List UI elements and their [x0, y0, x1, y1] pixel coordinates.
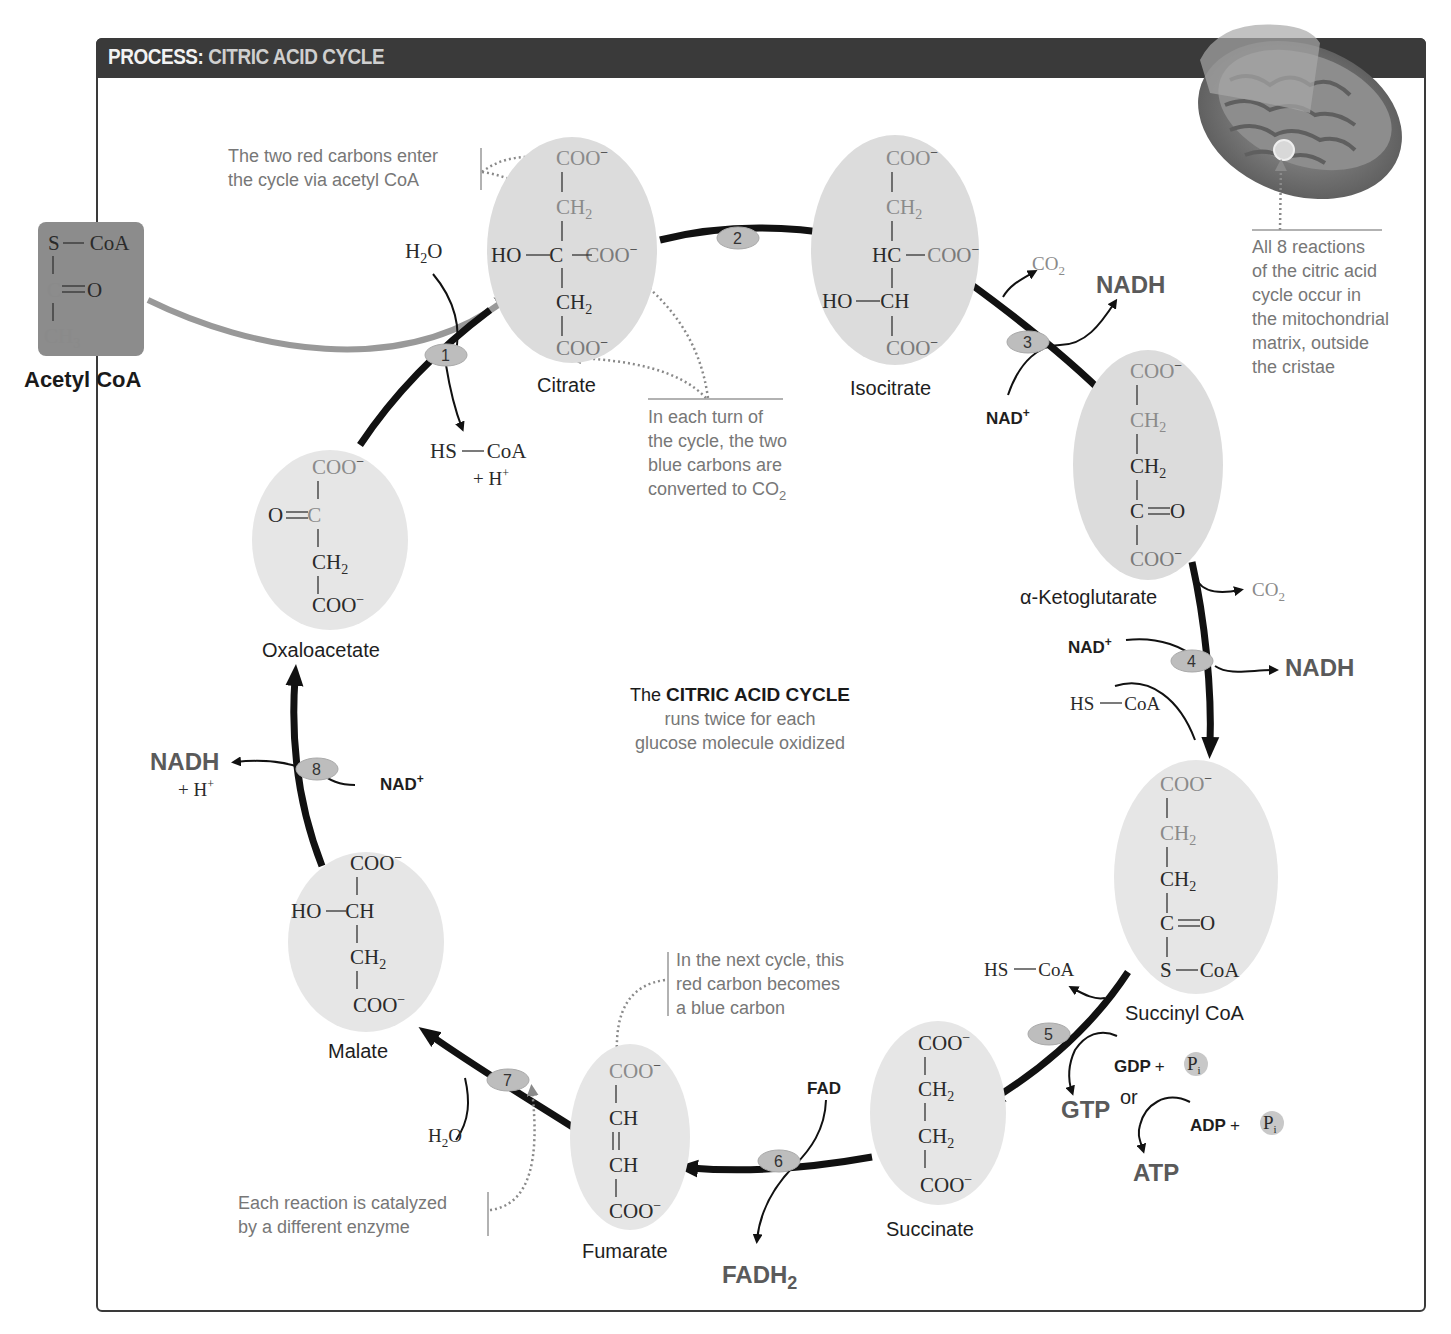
svg-text:glucose molecule oxidized: glucose molecule oxidized	[635, 733, 845, 753]
step-badge-1: 1	[425, 344, 467, 366]
svg-text:The two red carbons enter: The two red carbons enter	[228, 146, 438, 166]
svg-text:converted to CO2: converted to CO2	[648, 479, 786, 503]
step8-nad: NAD+	[380, 772, 424, 794]
svg-text:CH: CH	[609, 1106, 638, 1130]
step4-nadh: NADH	[1285, 654, 1354, 681]
svg-text:the cristae: the cristae	[1252, 357, 1335, 377]
svg-text:runs twice for each: runs twice for each	[664, 709, 815, 729]
citric-acid-cycle-figure: PROCESS: CITRIC ACID CYCLE	[0, 0, 1451, 1334]
step3-nadh: NADH	[1096, 271, 1165, 298]
note-arrow-enzyme	[490, 1090, 535, 1210]
step4-co2: CO2	[1252, 579, 1285, 604]
svg-text:by a different enzyme: by a different enzyme	[238, 1217, 410, 1237]
step5-atp: ATP	[1133, 1159, 1179, 1186]
step-badge-8: 8	[296, 758, 338, 780]
cycle-diagram: SCoA CO CH3 Acetyl CoA	[0, 0, 1451, 1334]
svg-text:cycle occur in: cycle occur in	[1252, 285, 1361, 305]
step5-or: or	[1120, 1086, 1138, 1108]
note-mitochondria: All 8 reactions of the citric acid cycle…	[1252, 237, 1389, 377]
step5-adp: ADP+	[1190, 1116, 1240, 1135]
step-badge-3: 3	[1007, 331, 1049, 353]
malate-molecule: COO− HOCH CH2 COO− Malate	[288, 850, 444, 1062]
svg-text:8: 8	[312, 761, 321, 778]
atp-out-arrow-5	[1139, 1098, 1190, 1150]
svg-text:the mitochondrial: the mitochondrial	[1252, 309, 1389, 329]
center-caption: The CITRIC ACID CYCLE runs twice for eac…	[630, 684, 850, 753]
svg-text:7: 7	[503, 1072, 512, 1089]
isocitrate-label: Isocitrate	[850, 377, 931, 399]
step6-fad: FAD	[807, 1079, 841, 1098]
svg-text:matrix, outside: matrix, outside	[1252, 333, 1369, 353]
note-arrow-next-cycle	[617, 980, 665, 1055]
svg-text:blue carbons are: blue carbons are	[648, 455, 782, 475]
malate-label: Malate	[328, 1040, 388, 1062]
fumarate-label: Fumarate	[582, 1240, 668, 1262]
svg-text:COO−: COO−	[886, 335, 938, 360]
citrate-molecule: COO− CH2 HOCCOO− CH2 COO− Citrate	[487, 137, 657, 396]
svg-text:Each reaction is catalyzed: Each reaction is catalyzed	[238, 1193, 447, 1213]
svg-text:1: 1	[441, 347, 450, 364]
note-red-carbons: The two red carbons enter the cycle via …	[228, 146, 481, 190]
note-enzyme: Each reaction is catalyzed by a differen…	[238, 1192, 488, 1237]
acetyl-coa-box: SCoA CO CH3 Acetyl CoA	[24, 222, 144, 392]
svg-text:of the citric acid: of the citric acid	[1252, 261, 1377, 281]
step5-gtp: GTP	[1061, 1096, 1110, 1123]
pi-badge-adp: Pi	[1260, 1111, 1284, 1135]
svg-text:6: 6	[774, 1153, 783, 1170]
svg-text:3: 3	[1023, 334, 1032, 351]
step8-hplus: + H+	[178, 777, 214, 800]
svg-text:the cycle, the two: the cycle, the two	[648, 431, 787, 451]
svg-text:The CITRIC ACID CYCLE: The CITRIC ACID CYCLE	[630, 684, 850, 705]
hscoa-out-arrow-5	[1072, 988, 1105, 998]
hscoa-out-arrow-1	[446, 365, 462, 428]
svg-text:5: 5	[1044, 1026, 1053, 1043]
isocitrate-molecule: COO− CH2 HCCOO− HOCH COO− Isocitrate	[811, 135, 980, 399]
gtp-out-arrow-5	[1069, 1033, 1117, 1092]
pi-badge-gdp: Pi	[1184, 1052, 1208, 1076]
succinyl-coa-molecule: COO− CH2 CH2 CO SCoA Succinyl CoA	[1114, 760, 1278, 1024]
svg-text:the cycle via acetyl CoA: the cycle via acetyl CoA	[228, 170, 419, 190]
svg-text:In the next cycle, this: In the next cycle, this	[676, 950, 844, 970]
note-next-cycle: In the next cycle, this red carbon becom…	[668, 950, 844, 1018]
svg-text:All 8 reactions: All 8 reactions	[1252, 237, 1365, 257]
step-badge-6: 6	[758, 1150, 800, 1172]
co2-out-arrow-4	[1198, 582, 1240, 592]
step1-hplus: + H+	[473, 466, 509, 489]
oxaloacetate-molecule: COO− OC CH2 COO− Oxaloacetate	[252, 450, 408, 661]
succinyl-coa-label: Succinyl CoA	[1125, 1002, 1245, 1024]
svg-text:In each turn of: In each turn of	[648, 407, 764, 427]
acetyl-coa-label: Acetyl CoA	[24, 367, 141, 392]
note-blue-carbons: In each turn of the cycle, the two blue …	[648, 399, 787, 503]
step7-h2o: H2O	[428, 1125, 462, 1150]
svg-text:4: 4	[1187, 653, 1196, 670]
step-badge-5: 5	[1028, 1023, 1070, 1045]
succinate-molecule: COO− CH2 CH2 COO− Succinate	[870, 1021, 1006, 1240]
svg-text:2: 2	[733, 230, 742, 247]
fumarate-molecule: COO− CH CH COO− Fumarate	[570, 1044, 690, 1262]
alpha-ketoglutarate-label: α-Ketoglutarate	[1020, 586, 1157, 608]
nadh-out-arrow-4	[1215, 666, 1275, 672]
step-badge-2: 2	[717, 227, 759, 249]
mitochondrion-illustration	[1176, 14, 1425, 230]
nadh-out-arrow-8	[235, 761, 302, 768]
oxaloacetate-label: Oxaloacetate	[262, 639, 380, 661]
step1-h2o: H2O	[405, 239, 442, 266]
step5-gdp: GDP+	[1114, 1057, 1165, 1076]
succinate-label: Succinate	[886, 1218, 974, 1240]
svg-text:a blue carbon: a blue carbon	[676, 998, 785, 1018]
step-badge-4: 4	[1171, 650, 1213, 672]
step4-nad: NAD+	[1068, 635, 1112, 657]
step3-co2: CO2	[1032, 253, 1065, 278]
citrate-label: Citrate	[537, 374, 596, 396]
arrow-step-1	[360, 310, 490, 445]
step8-nadh: NADH	[150, 748, 219, 775]
step6-fadh2: FADH2	[722, 1261, 797, 1293]
svg-text:red carbon becomes: red carbon becomes	[676, 974, 840, 994]
step3-nad: NAD+	[986, 406, 1030, 428]
step-badge-7: 7	[487, 1069, 529, 1091]
svg-text:CH: CH	[609, 1153, 638, 1177]
co2-out-arrow-3	[1003, 272, 1034, 297]
